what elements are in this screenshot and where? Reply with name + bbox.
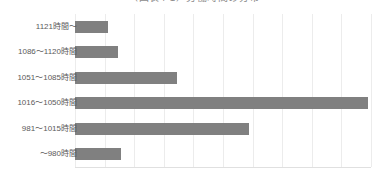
bar[interactable] — [75, 72, 177, 84]
bar[interactable] — [75, 148, 121, 160]
bar-chart: （図表4-1）労働時間の分布 1121時間〜1086〜1120時間1051〜10… — [0, 0, 388, 180]
category-label: 1086〜1120時間 — [18, 47, 77, 57]
x-axis-line — [75, 167, 371, 168]
bar-track — [75, 14, 371, 40]
category-label: 〜980時間 — [40, 149, 77, 159]
gridline — [371, 14, 372, 167]
plot-area — [75, 14, 371, 167]
bar[interactable] — [75, 21, 108, 33]
bar-track — [75, 91, 371, 117]
chart-title: （図表4-1）労働時間の分布 — [0, 0, 388, 4]
bar[interactable] — [75, 123, 249, 135]
category-label: 981〜1015時間 — [22, 124, 77, 134]
bar[interactable] — [75, 46, 118, 58]
category-label: 1121時間〜 — [36, 22, 77, 32]
bar-track — [75, 65, 371, 91]
bar-track — [75, 40, 371, 66]
bar[interactable] — [75, 97, 368, 109]
bar-track — [75, 116, 371, 142]
category-label: 1016〜1050時間 — [17, 98, 77, 108]
bar-track — [75, 142, 371, 168]
category-label: 1051〜1085時間 — [17, 73, 77, 83]
